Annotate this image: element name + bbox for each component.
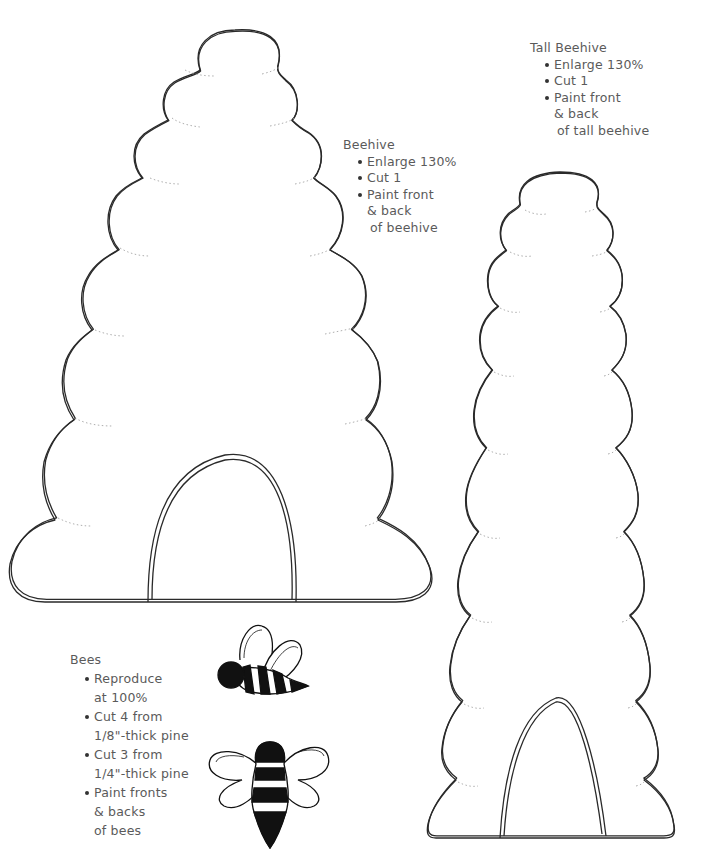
side-view-bee [218, 625, 308, 694]
bullet-icon [85, 715, 89, 719]
instruction-item: Enlarge 130% [358, 154, 457, 171]
instruction-item: Cut 1 [545, 73, 649, 90]
bullet-icon [358, 160, 362, 164]
tall-beehive-shape [427, 172, 674, 838]
bullet-icon [85, 753, 89, 757]
tall-beehive-instructions: Tall Beehive Enlarge 130% Cut 1 Paint fr… [530, 40, 649, 139]
bees-title: Bees [70, 650, 189, 669]
instruction-item: Cut 1 [358, 170, 457, 187]
beehive-instruction-list: Enlarge 130% Cut 1 Paint front& backof b… [343, 154, 457, 237]
instruction-item: Cut 4 from1/8"-thick pine [85, 707, 189, 745]
bees-instruction-list: Reproduceat 100% Cut 4 from1/8"-thick pi… [70, 669, 189, 840]
beehive-shape [9, 30, 432, 602]
instruction-item: Cut 3 from1/4"-thick pine [85, 745, 189, 783]
instruction-item: Paint front& backof tall beehive [545, 90, 649, 140]
instruction-item: Enlarge 130% [545, 57, 649, 74]
bullet-icon [85, 791, 89, 795]
bullet-icon [545, 63, 549, 67]
instruction-item: Paint fronts& backsof bees [85, 783, 189, 840]
tall-beehive-title: Tall Beehive [530, 40, 649, 57]
bullet-icon [545, 79, 549, 83]
tall-beehive-instruction-list: Enlarge 130% Cut 1 Paint front& backof t… [530, 57, 649, 140]
beehive-instructions: Beehive Enlarge 130% Cut 1 Paint front& … [343, 137, 457, 236]
top-view-bee [209, 742, 328, 848]
beehive-title: Beehive [343, 137, 457, 154]
bullet-icon [85, 677, 89, 681]
bees-instructions: Bees Reproduceat 100% Cut 4 from1/8"-thi… [70, 650, 189, 840]
bullet-icon [545, 96, 549, 100]
instruction-item: Reproduceat 100% [85, 669, 189, 707]
instruction-item: Paint front& backof beehive [358, 187, 457, 237]
bullet-icon [358, 176, 362, 180]
bullet-icon [358, 193, 362, 197]
